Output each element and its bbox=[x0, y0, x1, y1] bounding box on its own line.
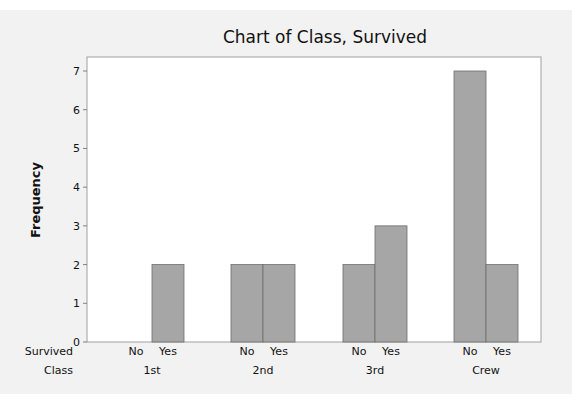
bar-2nd-no bbox=[231, 265, 263, 342]
class-tick-label: Crew bbox=[472, 364, 500, 377]
x-axis-labels: NoYes1stNoYes2ndNoYes3rdNoYesCrew bbox=[129, 345, 512, 377]
y-tick-label: 1 bbox=[73, 297, 80, 310]
survived-tick-label: Yes bbox=[269, 345, 288, 358]
bar-crew-no bbox=[454, 71, 486, 342]
survived-tick-label: No bbox=[129, 345, 144, 358]
class-tick-label: 2nd bbox=[253, 364, 274, 377]
y-tick-label: 6 bbox=[73, 104, 80, 117]
y-axis: 01234567 bbox=[73, 65, 87, 349]
survived-tick-label: Yes bbox=[158, 345, 177, 358]
bar-2nd-yes bbox=[263, 265, 295, 342]
class-tick-label: 3rd bbox=[366, 364, 384, 377]
y-tick-label: 3 bbox=[73, 220, 80, 233]
class-row-label: Class bbox=[44, 364, 73, 377]
survived-row-label: Survived bbox=[25, 345, 73, 358]
y-axis-label: Frequency bbox=[28, 161, 43, 238]
survived-tick-label: Yes bbox=[492, 345, 511, 358]
y-tick-label: 0 bbox=[73, 336, 80, 349]
survived-tick-label: Yes bbox=[381, 345, 400, 358]
chart-title: Chart of Class, Survived bbox=[223, 27, 427, 47]
y-tick-label: 2 bbox=[73, 259, 80, 272]
y-tick-label: 4 bbox=[73, 181, 80, 194]
bar-crew-yes bbox=[486, 265, 518, 342]
class-tick-label: 1st bbox=[143, 364, 161, 377]
y-tick-label: 7 bbox=[73, 65, 80, 78]
survived-tick-label: No bbox=[463, 345, 478, 358]
bar-chart: Chart of Class, Survived Frequency Survi… bbox=[0, 0, 572, 398]
bar-3rd-yes bbox=[375, 226, 407, 342]
y-tick-label: 5 bbox=[73, 142, 80, 155]
bar-3rd-no bbox=[343, 265, 375, 342]
bar-1st-yes bbox=[152, 265, 184, 342]
survived-tick-label: No bbox=[240, 345, 255, 358]
survived-tick-label: No bbox=[352, 345, 367, 358]
